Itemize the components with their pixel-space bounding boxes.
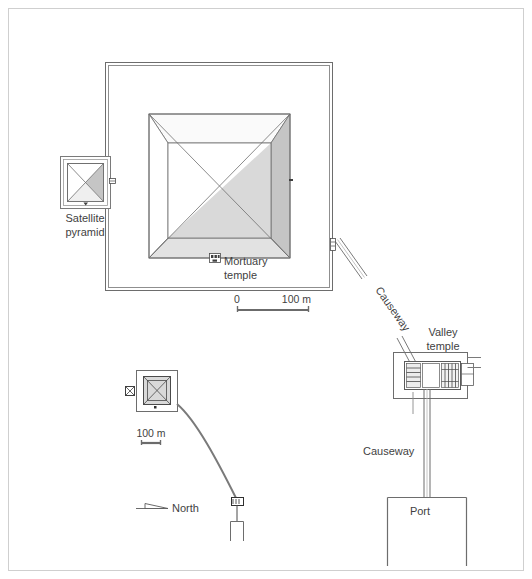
inset-mortuary-temple [154,406,157,409]
mortuary-chamber-4 [213,260,218,262]
valley-temple-label-line2: temple [426,340,459,352]
causeway-gate [331,239,336,251]
valley-temple-court [423,364,440,388]
mortuary-chamber-3 [218,255,220,258]
pyramid-face-north [149,114,290,143]
mortuary-chamber-2 [215,255,217,258]
main-pyramid [149,114,290,258]
main-scale-end-label: 100 m [282,293,311,305]
satellite-pyramid-structure [61,157,116,209]
port-label: Port [410,505,430,517]
valley-temple-label-line1: Valley [428,326,458,338]
main-scale-start-label: 0 [234,293,240,305]
site-plan-figure: 0 100 m [0,0,532,579]
north-label: North [172,502,199,514]
satellite-pyramid-label-line2: pyramid [65,226,104,238]
mortuary-chamber-1 [211,255,213,258]
page-background [0,0,532,579]
site-plan-canvas: 0 100 m [0,0,532,579]
satellite-pyramid-label-line1: Satellite [65,212,104,224]
mortuary-temple-label-line1: Mortuary [224,255,268,267]
valley-temple-west-chambers [407,364,421,388]
mortuary-temple-label-line2: temple [224,269,257,281]
pyramid-east-marker [289,179,293,181]
valley-temple-east-chambers [442,364,459,388]
mortuary-temple-structure [210,254,221,263]
inset-scale-label: 100 m [136,427,165,439]
causeway-lower-label: Causeway [363,445,415,457]
valley-temple-east-annex [462,364,474,386]
